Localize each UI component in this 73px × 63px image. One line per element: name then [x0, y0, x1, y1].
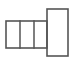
rectangle-net-diagram: [0, 0, 73, 63]
main-horizontal-bar-fill: [6, 21, 47, 48]
tall-right-panel-fill: [47, 9, 68, 56]
figure-canvas: [0, 0, 73, 63]
